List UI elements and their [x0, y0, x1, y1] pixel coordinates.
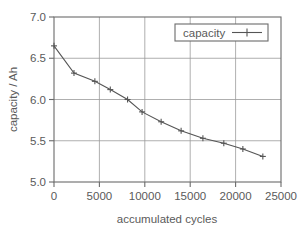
x-tick-label-4: 20000 [220, 190, 252, 202]
x-tick-label-2: 10000 [129, 190, 161, 202]
y-tick-labels: 5.0 5.5 6.0 6.5 7.0 [30, 11, 46, 188]
x-tick-label-0: 0 [51, 190, 57, 202]
y-axis-ticks [49, 17, 54, 182]
y-tick-label-2: 6.0 [30, 94, 46, 106]
y-axis-title: capacity / Ah [7, 67, 19, 132]
y-tick-label-4: 7.0 [30, 11, 46, 23]
y-tick-label-3: 6.5 [30, 52, 46, 64]
chart-legend[interactable]: capacity [175, 24, 268, 41]
y-tick-label-0: 5.0 [30, 176, 46, 188]
x-tick-label-1: 5000 [87, 190, 113, 202]
capacity-vs-cycles-chart: 5.0 5.5 6.0 6.5 7.0 0 5000 10000 15000 2… [0, 0, 304, 235]
x-tick-label-5: 25000 [265, 190, 297, 202]
chart-canvas: 5.0 5.5 6.0 6.5 7.0 0 5000 10000 15000 2… [0, 0, 304, 235]
y-tick-label-1: 5.5 [30, 135, 46, 147]
x-tick-label-3: 15000 [174, 190, 206, 202]
x-axis-ticks [54, 182, 281, 187]
x-tick-labels: 0 5000 10000 15000 20000 25000 [51, 190, 297, 202]
legend-label-capacity: capacity [183, 27, 225, 39]
x-axis-title: accumulated cycles [117, 213, 218, 225]
